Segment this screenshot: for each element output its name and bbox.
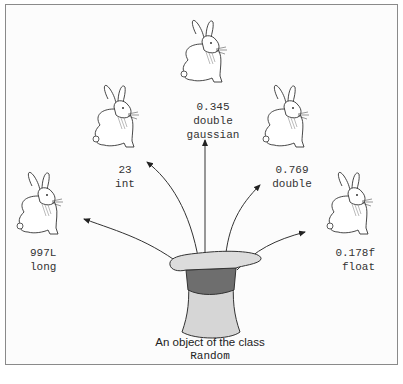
diagram-art xyxy=(0,0,403,384)
rabbit-double-icon xyxy=(263,85,309,147)
label-long: 997L long xyxy=(30,246,75,274)
rabbit-int-icon xyxy=(93,85,139,147)
value-text: 0.178f xyxy=(330,246,375,260)
magic-hat-icon xyxy=(170,251,261,338)
type-text: float xyxy=(330,260,375,274)
source-caption: An object of the class Random xyxy=(130,335,290,363)
type-text: double xyxy=(183,114,243,128)
rabbit-long-icon xyxy=(17,172,63,234)
caption-line: An object of the class xyxy=(130,335,290,349)
type-text: long xyxy=(30,260,75,274)
label-gaussian: 0.345 double gaussian xyxy=(183,100,243,142)
type-text: gaussian xyxy=(183,128,243,142)
value-text: 0.345 xyxy=(183,100,243,114)
label-double: 0.769 double xyxy=(262,163,322,191)
value-text: 997L xyxy=(30,246,75,260)
label-float: 0.178f float xyxy=(330,246,375,274)
value-text: 23 xyxy=(105,163,145,177)
rabbit-float-icon xyxy=(327,172,373,234)
rabbit-gaussian-icon xyxy=(181,20,227,82)
type-text: int xyxy=(105,177,145,191)
class-name: Random xyxy=(130,349,290,363)
type-text: double xyxy=(262,177,322,191)
value-text: 0.769 xyxy=(262,163,322,177)
label-int: 23 int xyxy=(105,163,145,191)
